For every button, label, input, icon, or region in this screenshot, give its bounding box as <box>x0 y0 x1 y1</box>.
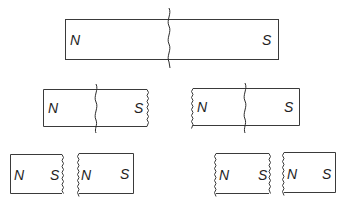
north-pole-label: N <box>197 99 208 115</box>
magnet-quarter-4: N S <box>283 153 336 196</box>
north-pole-label: N <box>14 167 25 183</box>
magnet-half-right: N S <box>192 83 300 133</box>
magnet-breaking-diagram: N S N S N S N S N S N S N <box>0 0 346 203</box>
magnet-quarter-3: N S <box>215 154 271 197</box>
south-pole-label: S <box>262 32 272 48</box>
north-pole-label: N <box>219 167 230 183</box>
south-pole-label: S <box>258 167 268 183</box>
magnet-half-left: N S <box>44 84 149 133</box>
broken-edge-left <box>78 154 80 197</box>
crack-line <box>95 84 97 133</box>
magnet-quarter-2: N S <box>78 154 134 197</box>
south-pole-label: S <box>134 100 144 116</box>
south-pole-label: S <box>322 166 332 182</box>
south-pole-label: S <box>284 99 294 115</box>
magnet-full: N S <box>66 8 279 68</box>
broken-edge-left <box>192 89 194 129</box>
broken-edge-right <box>62 155 64 194</box>
north-pole-label: N <box>70 32 81 48</box>
broken-edge-right <box>269 154 271 194</box>
north-pole-label: N <box>287 166 298 182</box>
broken-edge-right <box>147 90 149 127</box>
north-pole-label: N <box>81 167 92 183</box>
south-pole-label: S <box>50 167 60 183</box>
north-pole-label: N <box>48 100 59 116</box>
south-pole-label: S <box>120 166 130 182</box>
magnet-quarter-1: N S <box>11 155 64 194</box>
magnet-body <box>66 20 279 60</box>
broken-edge-left <box>283 153 285 196</box>
broken-edge-left <box>215 154 217 197</box>
